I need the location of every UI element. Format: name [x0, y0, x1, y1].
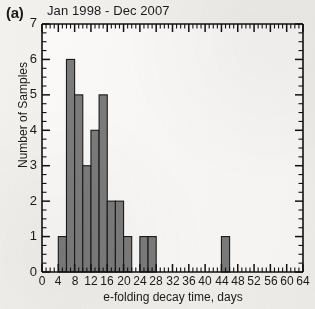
- histogram-bar: [99, 95, 107, 272]
- histogram-bar: [124, 237, 132, 272]
- histogram-bar: [115, 201, 123, 272]
- histogram-bar: [58, 237, 66, 272]
- histogram-bar: [107, 201, 115, 272]
- histogram-plot: [0, 0, 315, 309]
- histogram-bar: [75, 95, 83, 272]
- histogram-bar: [140, 237, 148, 272]
- figure-panel: (a) Jan 1998 - Dec 2007 Early Decay Inte…: [0, 0, 315, 309]
- histogram-bar: [148, 237, 156, 272]
- histogram-bar: [66, 59, 74, 272]
- histogram-bar: [91, 130, 99, 272]
- histogram-bar: [83, 166, 91, 272]
- histogram-bar: [221, 237, 229, 272]
